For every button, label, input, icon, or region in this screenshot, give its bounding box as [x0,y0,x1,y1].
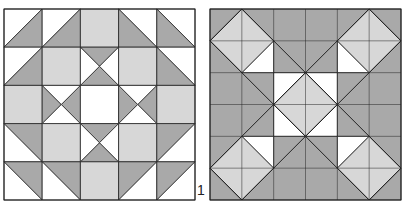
quilt-patch [4,85,42,123]
quilt-patch [119,124,157,162]
quilt-patch [80,85,118,123]
quilt-patch [119,47,157,85]
quilt-patch [157,85,195,123]
quilt-patch [80,9,118,47]
quilt-figure [0,0,406,212]
quilt-patch [80,162,118,200]
quilt-block-left [4,9,195,200]
quilt-patch [42,47,80,85]
figure-label: 1 [197,183,205,197]
quilt-patch [42,124,80,162]
quilt-block-right [210,9,401,200]
